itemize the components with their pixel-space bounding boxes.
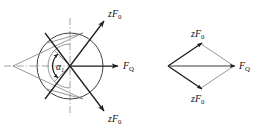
- figure-root: α1 zF0 zF0 FQ: [0, 0, 258, 132]
- right-lower-zf0-label: zF0: [190, 93, 205, 105]
- rhombus-lower-right-edge: [201, 66, 234, 88]
- alpha-angle-label: α1: [56, 62, 64, 73]
- alpha-subscript: 1: [61, 66, 64, 73]
- left-diagram-group: α1 zF0 zF0 FQ: [4, 8, 134, 125]
- zf0-sub-lower-right: 0: [201, 98, 205, 105]
- right-upper-zf0-label: zF0: [190, 28, 205, 40]
- zf0-sub-upper-left: 0: [118, 13, 122, 20]
- zf0-sub-lower-left: 0: [118, 118, 122, 125]
- left-lower-zf0-label: zF0: [107, 113, 122, 125]
- right-upper-zf0-arrow: [168, 43, 202, 66]
- left-fq-label: FQ: [122, 60, 134, 72]
- force-diagram-svg: α1 zF0 zF0 FQ: [0, 0, 258, 132]
- right-lower-zf0-arrow: [168, 66, 202, 89]
- fq-sub-right: Q: [245, 65, 250, 72]
- rhombus-upper-right-edge: [201, 44, 234, 66]
- right-diagram-group: zF0 zF0 FQ: [168, 28, 250, 105]
- right-fq-label: FQ: [238, 60, 250, 72]
- fq-sub-left: Q: [129, 65, 134, 72]
- zf0-sub-upper-right: 0: [201, 33, 205, 40]
- left-upper-zf0-label: zF0: [107, 8, 122, 20]
